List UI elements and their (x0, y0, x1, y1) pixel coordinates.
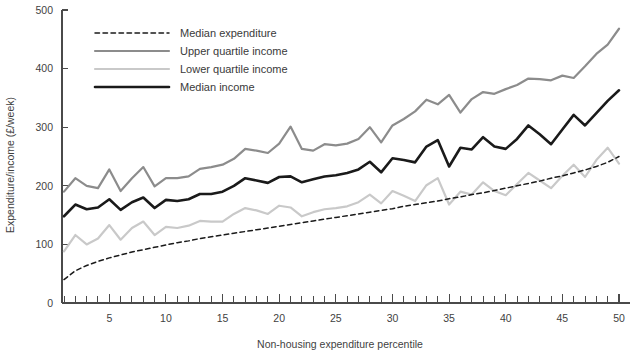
x-tick-label: 30 (387, 312, 399, 324)
x-tick-label: 50 (613, 312, 625, 324)
y-tick-group (62, 10, 68, 303)
y-tick-label: 200 (35, 180, 53, 192)
y-tick-label-group: 0100200300400500 (35, 4, 53, 309)
x-tick-label-group: 5101520253035404550 (106, 312, 625, 324)
x-tick-label: 35 (443, 312, 455, 324)
x-axis: 5101520253035404550 (62, 294, 630, 324)
x-tick-label: 10 (160, 312, 172, 324)
y-tick-label: 300 (35, 121, 53, 133)
chart-legend: Median expenditureUpper quartile incomeL… (95, 27, 288, 93)
series-group (64, 29, 619, 280)
x-axis-title: Non-housing expenditure percentile (257, 338, 423, 350)
x-tick-group (109, 294, 619, 303)
x-tick-label: 25 (330, 312, 342, 324)
legend-label-1: Upper quartile income (180, 45, 288, 57)
y-tick-label: 500 (35, 4, 53, 16)
x-tick-label: 20 (273, 312, 285, 324)
y-axis: 0100200300400500 (35, 4, 68, 309)
y-tick-label: 400 (35, 62, 53, 74)
legend-label-0: Median expenditure (180, 27, 277, 39)
legend-label-2: Lower quartile income (180, 63, 288, 75)
y-axis-title: Expenditure/income (£/week) (4, 97, 16, 233)
x-tick-label: 45 (557, 312, 569, 324)
legend-label-3: Median income (180, 81, 255, 93)
x-tick-label: 40 (500, 312, 512, 324)
x-tick-label: 15 (217, 312, 229, 324)
line-chart: 0100200300400500 5101520253035404550 Exp… (0, 0, 643, 357)
x-tick-label: 5 (106, 312, 112, 324)
series-line-upper-quartile-income (64, 29, 619, 192)
x-minor-tick-group (64, 296, 619, 303)
y-tick-label: 0 (47, 297, 53, 309)
series-line-median-income (64, 90, 619, 216)
y-tick-label: 100 (35, 238, 53, 250)
chart-container: 0100200300400500 5101520253035404550 Exp… (0, 0, 643, 357)
